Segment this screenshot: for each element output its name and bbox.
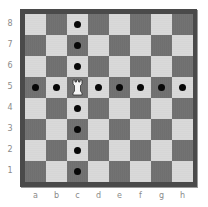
square-e7[interactable] [109, 35, 130, 56]
square-g2[interactable] [151, 140, 172, 161]
square-c1[interactable] [67, 161, 88, 182]
square-f2[interactable] [130, 140, 151, 161]
square-c2[interactable] [67, 140, 88, 161]
move-dot-icon[interactable] [32, 84, 39, 91]
rank-label-4: 4 [4, 103, 16, 112]
square-h7[interactable] [172, 35, 193, 56]
square-f5[interactable] [130, 77, 151, 98]
move-dot-icon[interactable] [74, 126, 81, 133]
move-dot-icon[interactable] [74, 105, 81, 112]
file-label-d: d [88, 191, 109, 200]
square-h1[interactable] [172, 161, 193, 182]
square-c4[interactable] [67, 98, 88, 119]
file-label-e: e [109, 191, 130, 200]
square-h6[interactable] [172, 56, 193, 77]
square-d4[interactable] [88, 98, 109, 119]
square-c3[interactable] [67, 119, 88, 140]
square-h3[interactable] [172, 119, 193, 140]
square-d3[interactable] [88, 119, 109, 140]
square-f8[interactable] [130, 14, 151, 35]
rank-label-1: 1 [4, 166, 16, 175]
square-b1[interactable] [46, 161, 67, 182]
square-e8[interactable] [109, 14, 130, 35]
square-h5[interactable] [172, 77, 193, 98]
square-a4[interactable] [25, 98, 46, 119]
square-g3[interactable] [151, 119, 172, 140]
square-g1[interactable] [151, 161, 172, 182]
square-f3[interactable] [130, 119, 151, 140]
square-g8[interactable] [151, 14, 172, 35]
square-f4[interactable] [130, 98, 151, 119]
square-g4[interactable] [151, 98, 172, 119]
square-a6[interactable] [25, 56, 46, 77]
square-c6[interactable] [67, 56, 88, 77]
rank-label-8: 8 [4, 19, 16, 28]
square-h8[interactable] [172, 14, 193, 35]
square-c5[interactable] [67, 77, 88, 98]
move-dot-icon[interactable] [116, 84, 123, 91]
square-b6[interactable] [46, 56, 67, 77]
move-dot-icon[interactable] [74, 147, 81, 154]
square-f6[interactable] [130, 56, 151, 77]
square-d2[interactable] [88, 140, 109, 161]
move-dot-icon[interactable] [95, 84, 102, 91]
square-e5[interactable] [109, 77, 130, 98]
file-label-h: h [172, 191, 193, 200]
square-g5[interactable] [151, 77, 172, 98]
file-label-f: f [130, 191, 151, 200]
square-a3[interactable] [25, 119, 46, 140]
square-f7[interactable] [130, 35, 151, 56]
file-label-c: c [67, 191, 88, 200]
square-c7[interactable] [67, 35, 88, 56]
square-g6[interactable] [151, 56, 172, 77]
move-dot-icon[interactable] [158, 84, 165, 91]
square-e2[interactable] [109, 140, 130, 161]
rank-label-2: 2 [4, 145, 16, 154]
move-dot-icon[interactable] [179, 84, 186, 91]
rank-label-3: 3 [4, 124, 16, 133]
rank-label-6: 6 [4, 61, 16, 70]
move-dot-icon[interactable] [74, 42, 81, 49]
square-d1[interactable] [88, 161, 109, 182]
square-d5[interactable] [88, 77, 109, 98]
square-a5[interactable] [25, 77, 46, 98]
file-label-a: a [25, 191, 46, 200]
move-dot-icon[interactable] [53, 84, 60, 91]
square-b3[interactable] [46, 119, 67, 140]
square-e4[interactable] [109, 98, 130, 119]
square-g7[interactable] [151, 35, 172, 56]
file-label-b: b [46, 191, 67, 200]
square-b5[interactable] [46, 77, 67, 98]
square-e6[interactable] [109, 56, 130, 77]
move-dot-icon[interactable] [74, 21, 81, 28]
move-dot-icon[interactable] [74, 63, 81, 70]
square-b4[interactable] [46, 98, 67, 119]
square-e1[interactable] [109, 161, 130, 182]
chess-board[interactable] [25, 14, 193, 182]
square-a2[interactable] [25, 140, 46, 161]
square-e3[interactable] [109, 119, 130, 140]
rank-label-7: 7 [4, 40, 16, 49]
square-d6[interactable] [88, 56, 109, 77]
square-a7[interactable] [25, 35, 46, 56]
white-rook-icon[interactable] [71, 79, 84, 96]
square-d8[interactable] [88, 14, 109, 35]
square-b2[interactable] [46, 140, 67, 161]
square-c8[interactable] [67, 14, 88, 35]
move-dot-icon[interactable] [137, 84, 144, 91]
square-h4[interactable] [172, 98, 193, 119]
rank-label-5: 5 [4, 82, 16, 91]
square-b7[interactable] [46, 35, 67, 56]
square-a1[interactable] [25, 161, 46, 182]
square-f1[interactable] [130, 161, 151, 182]
move-dot-icon[interactable] [74, 168, 81, 175]
square-a8[interactable] [25, 14, 46, 35]
square-d7[interactable] [88, 35, 109, 56]
file-label-g: g [151, 191, 172, 200]
square-b8[interactable] [46, 14, 67, 35]
square-h2[interactable] [172, 140, 193, 161]
